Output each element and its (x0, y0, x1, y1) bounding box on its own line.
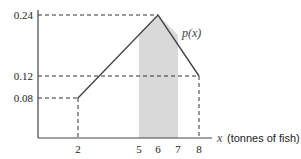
x-tick-8: 8 (196, 143, 202, 155)
x-tick-2: 2 (75, 143, 81, 155)
y-tick-0.08: 0.08 (14, 92, 34, 104)
x-tick-7: 7 (175, 143, 181, 155)
x-tick-6: 6 (155, 143, 161, 155)
x-tick-5: 5 (136, 143, 142, 155)
pdf-curve (78, 15, 199, 98)
x-axis-variable: x (216, 131, 223, 145)
x-axis-unit-label: (tonnes of fish) (227, 132, 300, 144)
curve-label: p(x) (181, 26, 201, 40)
y-tick-0.12: 0.12 (14, 70, 33, 82)
pdf-chart: 0.24 0.12 0.08 2 5 6 7 8 p(x) x (tonnes … (0, 0, 301, 159)
y-tick-0.24: 0.24 (14, 9, 34, 21)
